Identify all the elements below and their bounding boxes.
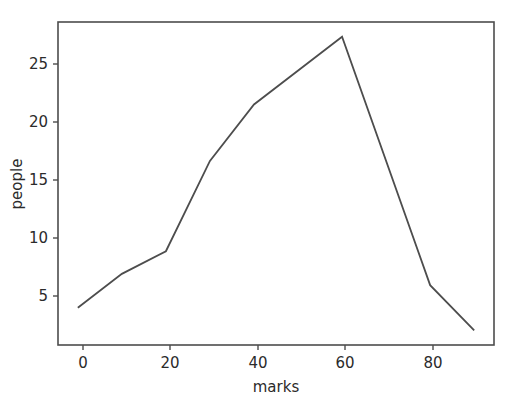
chart-figure: 0 20 40 60 80 5 10 15 20 25 marks people <box>0 0 514 397</box>
line-chart: 0 20 40 60 80 5 10 15 20 25 marks people <box>0 0 514 397</box>
x-tick-label-80: 80 <box>423 354 442 372</box>
y-axis-label: people <box>8 159 26 210</box>
x-tick-label-0: 0 <box>78 354 88 372</box>
axes-frame <box>58 22 494 345</box>
y-tick-label-20: 20 <box>29 113 48 131</box>
y-tick-label-5: 5 <box>38 287 48 305</box>
y-tick-label-15: 15 <box>29 171 48 189</box>
data-series-people <box>78 37 474 331</box>
x-tick-label-20: 20 <box>160 354 179 372</box>
x-tick-label-40: 40 <box>248 354 267 372</box>
y-tick-label-25: 25 <box>29 55 48 73</box>
x-tick-label-60: 60 <box>335 354 354 372</box>
y-tick-label-10: 10 <box>29 229 48 247</box>
x-axis-label: marks <box>253 378 300 396</box>
